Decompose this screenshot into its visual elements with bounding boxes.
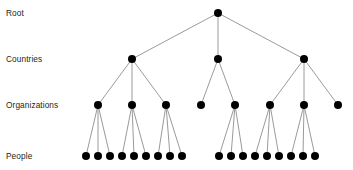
tree-edge — [270, 59, 304, 105]
tree-node-people[interactable] — [178, 152, 186, 160]
tree-node-people[interactable] — [142, 152, 150, 160]
tree-node-people[interactable] — [82, 152, 90, 160]
tree-node-countries[interactable] — [128, 55, 136, 63]
tree-edge — [291, 105, 304, 156]
tree-node-people[interactable] — [287, 152, 295, 160]
tree-node-people[interactable] — [130, 152, 138, 160]
tree-node-people[interactable] — [311, 152, 319, 160]
tree-node-root[interactable] — [214, 9, 222, 17]
tree-node-organizations[interactable] — [128, 101, 136, 109]
tree-node-people[interactable] — [227, 152, 235, 160]
tree-node-countries[interactable] — [214, 55, 222, 63]
tree-edge — [235, 105, 243, 156]
tree-node-people[interactable] — [275, 152, 283, 160]
tree-diagram: RootCountriesOrganizationsPeople — [0, 0, 353, 170]
tree-edge — [122, 105, 132, 156]
tree-node-people[interactable] — [154, 152, 162, 160]
tree-node-organizations[interactable] — [231, 101, 239, 109]
tree-node-organizations[interactable] — [162, 101, 170, 109]
tree-node-organizations[interactable] — [300, 101, 308, 109]
tree-edge — [201, 59, 218, 105]
tree-edge — [270, 105, 279, 156]
tree-node-people[interactable] — [215, 152, 223, 160]
tree-node-organizations[interactable] — [334, 101, 342, 109]
tree-node-organizations[interactable] — [94, 101, 102, 109]
tree-edge — [158, 105, 166, 156]
tree-node-organizations[interactable] — [197, 101, 205, 109]
tree-node-people[interactable] — [263, 152, 271, 160]
tree-edge — [98, 105, 110, 156]
tree-edge — [132, 59, 166, 105]
tree-edge — [132, 13, 218, 59]
tree-edge — [304, 105, 315, 156]
tree-node-people[interactable] — [299, 152, 307, 160]
tree-node-people[interactable] — [166, 152, 174, 160]
tree-edge — [98, 59, 132, 105]
tree-node-people[interactable] — [251, 152, 259, 160]
tree-edge — [218, 59, 235, 105]
tree-edges-layer — [0, 0, 353, 170]
tree-edge — [218, 13, 304, 59]
level-label-countries: Countries — [6, 54, 42, 64]
tree-node-countries[interactable] — [300, 55, 308, 63]
level-label-people: People — [6, 151, 32, 161]
tree-node-people[interactable] — [106, 152, 114, 160]
tree-edge — [303, 105, 304, 156]
level-label-organizations: Organizations — [6, 100, 58, 110]
tree-node-people[interactable] — [239, 152, 247, 160]
tree-edge — [304, 59, 338, 105]
tree-node-people[interactable] — [118, 152, 126, 160]
tree-edge — [86, 105, 98, 156]
tree-node-people[interactable] — [94, 152, 102, 160]
tree-node-organizations[interactable] — [266, 101, 274, 109]
level-label-root: Root — [6, 8, 24, 18]
